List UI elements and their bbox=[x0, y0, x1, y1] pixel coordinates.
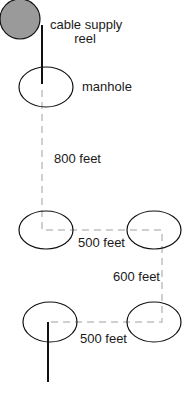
reel-label: cable supply reel bbox=[50, 18, 120, 46]
segment-label-500-bottom: 500 feet bbox=[80, 332, 127, 346]
reel-label-line2: reel bbox=[50, 32, 120, 46]
segment-label-800: 800 feet bbox=[54, 152, 101, 166]
cable-supply-reel bbox=[0, 0, 40, 39]
reel-label-line1: cable supply bbox=[50, 18, 120, 32]
manhole-label: manhole bbox=[82, 80, 132, 94]
duct-path bbox=[42, 90, 162, 322]
segment-label-500-top: 500 feet bbox=[78, 236, 125, 250]
segment-label-600: 600 feet bbox=[113, 270, 160, 284]
manhole-1 bbox=[19, 67, 73, 107]
